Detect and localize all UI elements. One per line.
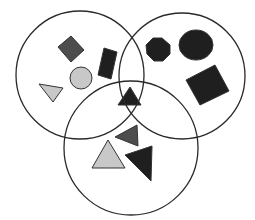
venn-diagram bbox=[0, 0, 255, 220]
shapes-layer bbox=[39, 30, 229, 181]
venn-diagram-canvas bbox=[0, 0, 255, 220]
light-gray-triangle-down-shape bbox=[39, 84, 63, 102]
dark-triangle-large-shape bbox=[125, 146, 152, 181]
dark-rotated-square-shape bbox=[186, 65, 229, 105]
mid-gray-triangle-small-shape bbox=[115, 125, 138, 146]
light-gray-triangle-up-shape bbox=[92, 140, 125, 168]
light-gray-circle-shape bbox=[70, 67, 92, 89]
dark-octagon-shape bbox=[146, 38, 170, 61]
right-set-circle bbox=[119, 13, 245, 139]
dark-tilted-rectangle-shape bbox=[98, 48, 117, 79]
mid-gray-diamond-shape bbox=[58, 36, 84, 62]
dark-ellipse-shape bbox=[179, 30, 213, 60]
